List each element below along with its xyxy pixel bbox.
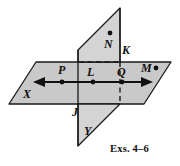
point-dot-P [60, 80, 65, 85]
label-M: M [141, 62, 152, 74]
label-Q: Q [117, 66, 126, 78]
point-dot-M [154, 66, 159, 71]
label-N: N [104, 38, 113, 50]
label-X: X [23, 88, 31, 100]
vertical-plane-upper [78, 8, 120, 62]
point-dot-Q [120, 80, 125, 85]
label-K: K [122, 44, 130, 56]
geometry-figure: N K P L Q M X J Y Exs. 4–6 [0, 0, 180, 166]
figure-caption: Exs. 4–6 [110, 143, 149, 154]
figure-canvas [0, 0, 180, 166]
label-L: L [87, 66, 94, 78]
label-P: P [58, 64, 65, 76]
label-J: J [72, 106, 78, 118]
point-dot-N [108, 31, 113, 36]
point-dot-L [91, 80, 96, 85]
label-Y: Y [84, 125, 91, 137]
